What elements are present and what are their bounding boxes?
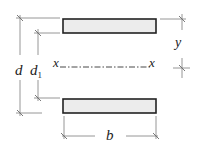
- label-b: b: [106, 127, 114, 143]
- label-d1: d1: [30, 62, 42, 80]
- top-flange: [63, 19, 156, 33]
- label-y: y: [173, 35, 182, 50]
- label-d: d: [15, 62, 23, 78]
- bottom-flange: [63, 99, 156, 113]
- label-x-right: x: [148, 55, 155, 70]
- cross-section-diagram: d d1 x x y b: [0, 0, 199, 149]
- label-x-left: x: [52, 55, 59, 70]
